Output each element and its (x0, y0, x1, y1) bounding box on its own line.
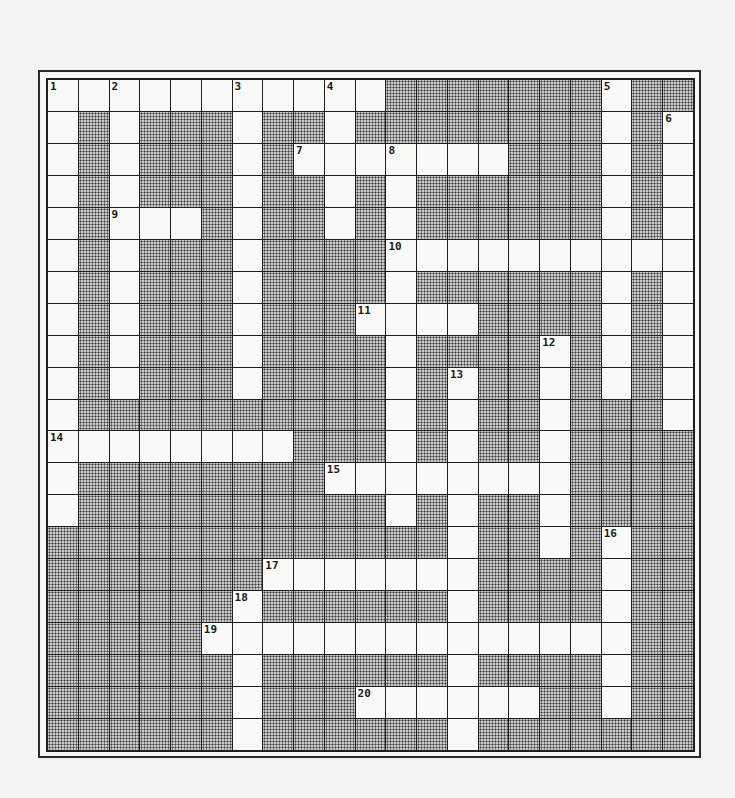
answer-cell[interactable] (602, 559, 632, 590)
answer-cell[interactable] (448, 591, 478, 622)
answer-cell[interactable] (140, 431, 170, 462)
answer-cell[interactable] (233, 655, 263, 686)
answer-cell[interactable] (417, 687, 447, 718)
answer-cell[interactable] (540, 463, 570, 494)
answer-cell[interactable] (110, 240, 140, 271)
answer-cell[interactable] (663, 304, 693, 335)
answer-cell[interactable] (294, 80, 324, 111)
answer-cell[interactable] (325, 112, 355, 143)
answer-cell[interactable]: 20 (356, 687, 386, 718)
answer-cell[interactable] (540, 431, 570, 462)
answer-cell[interactable] (233, 272, 263, 303)
answer-cell[interactable] (48, 463, 78, 494)
answer-cell[interactable] (110, 272, 140, 303)
answer-cell[interactable] (110, 431, 140, 462)
answer-cell[interactable] (386, 463, 416, 494)
answer-cell[interactable] (386, 272, 416, 303)
answer-cell[interactable] (110, 368, 140, 399)
answer-cell[interactable] (325, 623, 355, 654)
answer-cell[interactable] (479, 623, 509, 654)
answer-cell[interactable] (263, 431, 293, 462)
answer-cell[interactable] (663, 240, 693, 271)
answer-cell[interactable] (663, 144, 693, 175)
answer-cell[interactable] (386, 368, 416, 399)
answer-cell[interactable]: 3 (233, 80, 263, 111)
answer-cell[interactable]: 1 (48, 80, 78, 111)
answer-cell[interactable] (356, 80, 386, 111)
answer-cell[interactable] (448, 687, 478, 718)
answer-cell[interactable] (540, 495, 570, 526)
answer-cell[interactable]: 19 (202, 623, 232, 654)
answer-cell[interactable] (448, 240, 478, 271)
answer-cell[interactable] (48, 400, 78, 431)
answer-cell[interactable] (602, 112, 632, 143)
answer-cell[interactable] (663, 400, 693, 431)
answer-cell[interactable] (479, 144, 509, 175)
answer-cell[interactable]: 18 (233, 591, 263, 622)
answer-cell[interactable] (202, 431, 232, 462)
answer-cell[interactable] (602, 368, 632, 399)
answer-cell[interactable] (386, 400, 416, 431)
answer-cell[interactable] (571, 623, 601, 654)
answer-cell[interactable] (602, 623, 632, 654)
answer-cell[interactable] (448, 304, 478, 335)
answer-cell[interactable] (233, 368, 263, 399)
answer-cell[interactable] (632, 240, 662, 271)
answer-cell[interactable]: 14 (48, 431, 78, 462)
answer-cell[interactable]: 17 (263, 559, 293, 590)
answer-cell[interactable]: 12 (540, 336, 570, 367)
answer-cell[interactable] (48, 336, 78, 367)
answer-cell[interactable] (233, 208, 263, 239)
answer-cell[interactable] (417, 144, 447, 175)
answer-cell[interactable]: 9 (110, 208, 140, 239)
answer-cell[interactable]: 7 (294, 144, 324, 175)
answer-cell[interactable] (233, 144, 263, 175)
answer-cell[interactable] (356, 623, 386, 654)
answer-cell[interactable]: 13 (448, 368, 478, 399)
answer-cell[interactable] (233, 687, 263, 718)
answer-cell[interactable] (540, 368, 570, 399)
answer-cell[interactable] (48, 272, 78, 303)
answer-cell[interactable] (48, 304, 78, 335)
answer-cell[interactable] (663, 208, 693, 239)
answer-cell[interactable] (602, 687, 632, 718)
answer-cell[interactable] (110, 304, 140, 335)
answer-cell[interactable] (386, 559, 416, 590)
answer-cell[interactable] (386, 687, 416, 718)
answer-cell[interactable] (263, 623, 293, 654)
answer-cell[interactable] (663, 176, 693, 207)
answer-cell[interactable] (417, 623, 447, 654)
answer-cell[interactable] (110, 336, 140, 367)
answer-cell[interactable] (356, 559, 386, 590)
answer-cell[interactable] (356, 144, 386, 175)
answer-cell[interactable] (663, 336, 693, 367)
answer-cell[interactable] (386, 176, 416, 207)
answer-cell[interactable] (417, 304, 447, 335)
answer-cell[interactable] (663, 272, 693, 303)
answer-cell[interactable] (48, 208, 78, 239)
answer-cell[interactable] (48, 176, 78, 207)
answer-cell[interactable] (417, 559, 447, 590)
answer-cell[interactable] (79, 431, 109, 462)
answer-cell[interactable] (171, 80, 201, 111)
answer-cell[interactable]: 4 (325, 80, 355, 111)
answer-cell[interactable] (140, 80, 170, 111)
answer-cell[interactable] (602, 144, 632, 175)
answer-cell[interactable] (448, 495, 478, 526)
answer-cell[interactable] (602, 655, 632, 686)
answer-cell[interactable] (448, 623, 478, 654)
answer-cell[interactable] (233, 304, 263, 335)
answer-cell[interactable]: 6 (663, 112, 693, 143)
answer-cell[interactable] (602, 336, 632, 367)
answer-cell[interactable] (110, 112, 140, 143)
answer-cell[interactable] (294, 623, 324, 654)
answer-cell[interactable]: 15 (325, 463, 355, 494)
answer-cell[interactable] (479, 240, 509, 271)
answer-cell[interactable] (386, 431, 416, 462)
answer-cell[interactable] (448, 655, 478, 686)
answer-cell[interactable] (540, 400, 570, 431)
answer-cell[interactable] (602, 304, 632, 335)
answer-cell[interactable] (48, 368, 78, 399)
answer-cell[interactable] (602, 240, 632, 271)
answer-cell[interactable] (356, 463, 386, 494)
